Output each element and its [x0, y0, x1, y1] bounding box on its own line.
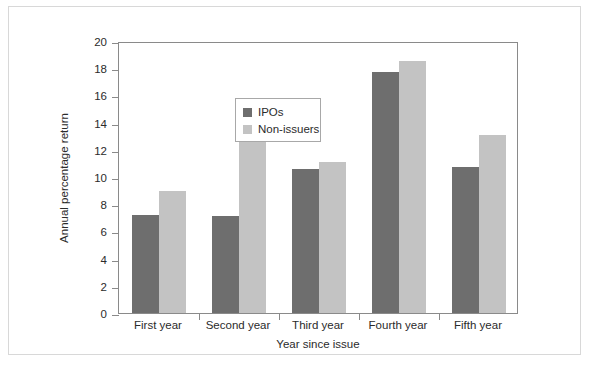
legend-swatch-non-issuers [243, 125, 252, 134]
y-axis-tick [112, 179, 119, 180]
x-axis-label: Fourth year [358, 319, 438, 331]
y-axis-tick-label: 8 [101, 200, 107, 212]
bar-chart-figure: Annual percentage return Year since issu… [0, 0, 599, 376]
y-axis-tick [112, 206, 119, 207]
y-axis-tick-label: 16 [94, 92, 107, 104]
y-axis-tick [112, 261, 119, 262]
legend-swatch-ipos [243, 108, 252, 117]
y-axis-tick [112, 315, 119, 316]
y-axis-tick [112, 288, 119, 289]
bar-non-issuers [159, 191, 186, 313]
y-axis-tick [112, 70, 119, 71]
bar-ipos [452, 167, 479, 313]
bar-ipos [372, 72, 399, 313]
legend-label-ipos: IPOs [258, 107, 284, 119]
y-axis-tick [112, 97, 119, 98]
bar-non-issuers [239, 139, 266, 313]
y-axis-tick-label: 2 [101, 282, 107, 294]
y-axis-tick-label: 14 [94, 119, 107, 131]
y-axis-tick [112, 125, 119, 126]
x-axis-label: Fifth year [438, 319, 518, 331]
bar-ipos [292, 169, 319, 313]
y-axis-tick-label: 4 [101, 255, 107, 267]
x-axis-label: Second year [198, 319, 278, 331]
y-axis-tick-label: 0 [101, 309, 107, 321]
y-axis-tick-label: 10 [94, 173, 107, 185]
bar-ipos [132, 215, 159, 313]
y-axis-tick [112, 43, 119, 44]
y-axis-tick-label: 12 [94, 146, 107, 158]
bar-non-issuers [319, 162, 346, 313]
y-axis-title: Annual percentage return [58, 113, 70, 243]
legend-label-non-issuers: Non-issuers [258, 124, 319, 136]
x-axis-label: Third year [278, 319, 358, 331]
legend-item: Non-issuers [243, 121, 320, 138]
y-axis-tick-label: 18 [94, 64, 107, 76]
chart-legend: IPOs Non-issuers [235, 98, 321, 142]
legend-item: IPOs [243, 104, 320, 121]
y-axis-tick-label: 6 [101, 228, 107, 240]
figure-page: Annual percentage return Year since issu… [0, 0, 599, 376]
y-axis-tick [112, 152, 119, 153]
bar-non-issuers [399, 61, 426, 313]
bar-ipos [212, 216, 239, 313]
y-axis-tick-label: 20 [94, 37, 107, 49]
y-axis-tick [112, 233, 119, 234]
bar-non-issuers [479, 135, 506, 313]
x-axis-title: Year since issue [276, 338, 359, 350]
plot-area: 02468101214161820 IPOs Non-issuers [118, 42, 518, 314]
x-axis-label: First year [118, 319, 198, 331]
